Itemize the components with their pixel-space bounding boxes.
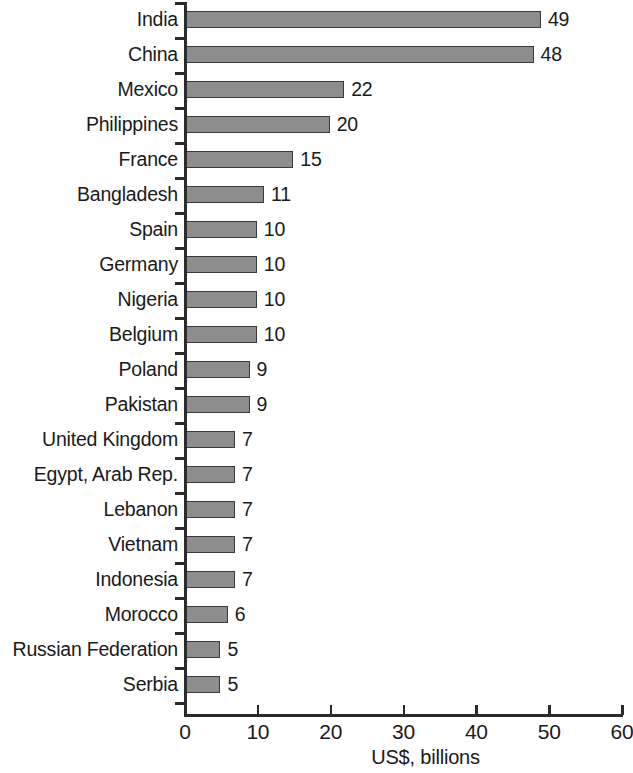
x-axis-tick: [475, 705, 478, 715]
bar-container: 11: [185, 177, 633, 212]
x-axis-tick: [257, 705, 260, 715]
x-axis-tick-label: 20: [319, 720, 342, 744]
y-axis-tick: [175, 107, 184, 110]
x-axis-tick: [548, 705, 551, 715]
bar: [185, 46, 534, 63]
bar: [185, 396, 250, 413]
category-label: Mexico: [117, 72, 178, 107]
y-axis-tick: [175, 72, 184, 75]
bar-row: Germany10: [0, 247, 633, 282]
bar-row: United Kingdom7: [0, 422, 633, 457]
category-label: Egypt, Arab Rep.: [34, 457, 178, 492]
bar-value-label: 7: [242, 492, 253, 527]
bar-value-label: 6: [235, 597, 246, 632]
category-label: Spain: [129, 212, 178, 247]
bar: [185, 501, 235, 518]
bar-container: 10: [185, 317, 633, 352]
bar: [185, 466, 235, 483]
bar-row: India49: [0, 2, 633, 37]
x-axis-tick-label: 30: [392, 720, 415, 744]
bar: [185, 11, 541, 28]
bar: [185, 431, 235, 448]
y-axis-tick: [175, 37, 184, 40]
bar-container: 20: [185, 107, 633, 142]
x-axis-tick-label: 40: [465, 720, 488, 744]
x-axis-tick-label: 50: [538, 720, 561, 744]
bar: [185, 676, 220, 693]
category-label: Nigeria: [118, 282, 178, 317]
bar: [185, 571, 235, 588]
bar-value-label: 7: [242, 422, 253, 457]
category-label: India: [137, 2, 178, 37]
bar-chart: India49China48Mexico22Philippines20Franc…: [0, 0, 633, 773]
bar: [185, 606, 228, 623]
y-axis-tick: [175, 492, 184, 495]
bar-row: Russian Federation5: [0, 632, 633, 667]
category-label: Bangladesh: [77, 177, 178, 212]
bar-row: Poland9: [0, 352, 633, 387]
bar-row: Indonesia7: [0, 562, 633, 597]
bar-container: 10: [185, 282, 633, 317]
bar-container: 5: [185, 667, 633, 702]
category-label: Germany: [99, 247, 178, 282]
bar: [185, 326, 257, 343]
bar-container: 10: [185, 212, 633, 247]
bar-container: 9: [185, 387, 633, 422]
x-axis-tick: [330, 705, 333, 715]
x-axis-tick-label: 0: [179, 720, 190, 744]
y-axis-tick: [175, 387, 184, 390]
y-axis-tick: [175, 177, 184, 180]
y-axis-tick: [175, 457, 184, 460]
category-label: Russian Federation: [13, 632, 179, 667]
category-label: China: [128, 37, 178, 72]
bar-value-label: 7: [242, 457, 253, 492]
bar-row: Egypt, Arab Rep.7: [0, 457, 633, 492]
bar-value-label: 5: [227, 667, 238, 702]
bar-value-label: 15: [300, 142, 321, 177]
y-axis-tick: [175, 422, 184, 425]
bar-value-label: 48: [541, 37, 562, 72]
y-axis-tick: [175, 352, 184, 355]
bar-value-label: 10: [264, 247, 285, 282]
bar-value-label: 7: [242, 527, 253, 562]
category-label: Lebanon: [103, 492, 178, 527]
y-axis-tick: [175, 562, 184, 565]
y-axis-tick: [175, 247, 184, 250]
bar-container: 48: [185, 37, 633, 72]
y-axis-tick: [175, 527, 184, 530]
bar-value-label: 10: [264, 212, 285, 247]
y-axis-line: [184, 2, 187, 715]
x-axis-title-text: US$, billions: [371, 746, 480, 769]
y-axis-tick: [175, 702, 184, 705]
bar-row: Philippines20: [0, 107, 633, 142]
x-axis-tick-label: 60: [611, 720, 633, 744]
category-label: United Kingdom: [42, 422, 178, 457]
bar-container: 7: [185, 562, 633, 597]
category-label: Philippines: [86, 107, 178, 142]
bar-row: France15: [0, 142, 633, 177]
bar-row: Nigeria10: [0, 282, 633, 317]
category-label: Pakistan: [105, 387, 178, 422]
bar-value-label: 49: [548, 2, 569, 37]
x-axis-tick: [403, 705, 406, 715]
x-axis-title: US$, billions: [0, 746, 633, 769]
bar: [185, 641, 220, 658]
x-axis-tick: [184, 705, 187, 715]
y-axis-tick: [175, 142, 184, 145]
bar-row: Vietnam7: [0, 527, 633, 562]
category-label: Vietnam: [108, 527, 178, 562]
bar-value-label: 11: [271, 177, 291, 212]
bar-container: 7: [185, 457, 633, 492]
y-axis-tick: [175, 212, 184, 215]
bar-container: 7: [185, 492, 633, 527]
bar-row: Serbia5: [0, 667, 633, 702]
y-axis-tick: [175, 667, 184, 670]
bar: [185, 536, 235, 553]
bar-row: Bangladesh11: [0, 177, 633, 212]
bar-container: 7: [185, 527, 633, 562]
bar-row: Lebanon7: [0, 492, 633, 527]
y-axis-tick: [175, 282, 184, 285]
bar-row: Belgium10: [0, 317, 633, 352]
category-label: Serbia: [123, 667, 178, 702]
bar-rows: India49China48Mexico22Philippines20Franc…: [0, 2, 633, 702]
